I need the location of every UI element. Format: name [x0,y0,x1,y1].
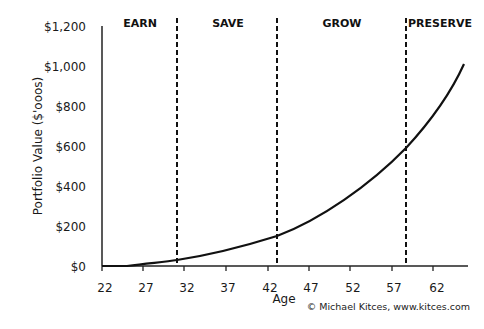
x-axis-title: Age [272,292,295,306]
x-tick-label: 47 [303,281,318,295]
lifecycle-chart: $1,200 $1,000 $800 $600 $400 $200 $0 22 … [0,0,484,329]
phase-label-save: SAVE [212,17,244,30]
x-tick-label: 22 [97,281,112,295]
copyright-credit: © Michael Kitces, www.kitces.com [307,301,470,312]
y-tick-label: $1,200 [44,20,86,34]
portfolio-value-line [102,64,464,266]
y-tick-label: $800 [55,100,86,114]
y-tick-label: $600 [55,140,86,154]
y-tick-label: $0 [71,260,86,274]
phase-label-preserve: PRESERVE [408,17,472,30]
x-tick-label: 32 [179,281,194,295]
phase-dividers [177,18,406,266]
x-tick-labels: 22 27 32 37 42 47 52 57 62 [97,281,444,295]
y-tick-labels: $1,200 $1,000 $800 $600 $400 $200 $0 [44,20,86,274]
x-tick-label: 27 [138,281,153,295]
y-tick-label: $400 [55,180,86,194]
y-tick-label: $200 [55,220,86,234]
x-tick-label: 57 [386,281,401,295]
phase-label-earn: EARN [123,17,157,30]
x-tick-label: 37 [220,281,235,295]
x-tick-label: 52 [345,281,360,295]
y-axis-title: Portfolio Value ($'ooos) [31,77,45,216]
phase-label-grow: GROW [323,17,362,30]
y-tick-label: $1,000 [44,60,86,74]
x-tick-label: 62 [429,281,444,295]
